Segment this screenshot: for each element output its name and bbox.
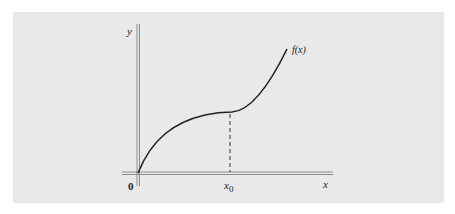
x0-label: x0 (223, 179, 234, 194)
origin-label: 0 (128, 180, 134, 192)
x-axis (122, 172, 333, 175)
x-axis-label: x (322, 178, 328, 190)
curve-label: f(x) (292, 44, 307, 56)
y-axis (137, 24, 140, 186)
function-graph: y x 0 x0 f(x) (0, 0, 455, 214)
function-curve (138, 49, 287, 173)
y-axis-label: y (126, 25, 132, 37)
